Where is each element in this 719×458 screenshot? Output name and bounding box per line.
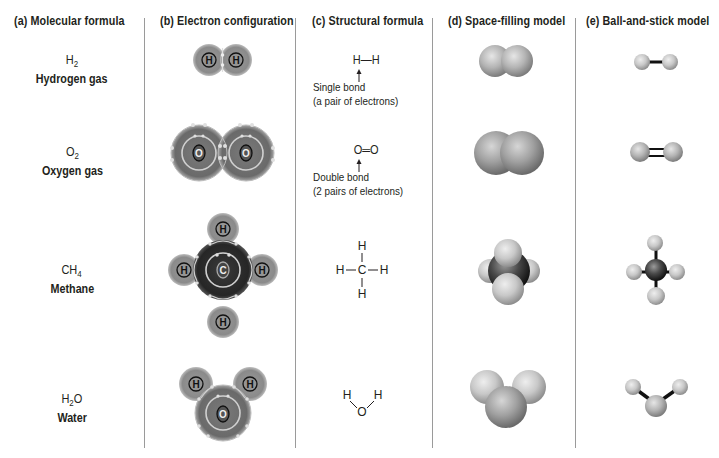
space-filling-oxygen [474, 131, 544, 175]
ball-and-stick-oxygen [630, 142, 683, 162]
ball-and-stick-methane [626, 235, 685, 305]
space-filling-water [470, 370, 546, 428]
ball-and-stick-hydrogen [634, 54, 678, 70]
ball-and-stick-water [625, 379, 688, 417]
space-filling-hydrogen [479, 45, 533, 77]
molecular-models [0, 0, 719, 458]
space-filling-methane [478, 239, 540, 305]
